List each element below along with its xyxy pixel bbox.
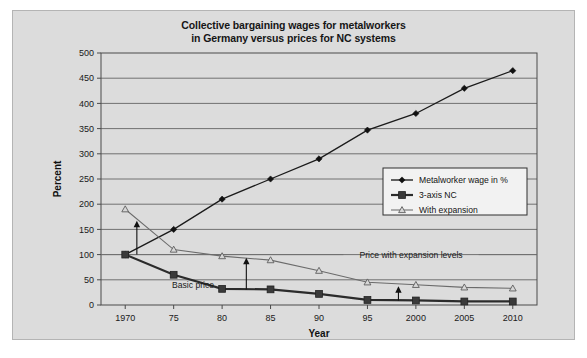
legend: Metalworker wage in %3-axis NCWith expan… <box>383 168 527 215</box>
y-tick-label: 50 <box>84 275 94 285</box>
plot-area: 050100150200250300350400450500 197075808… <box>13 11 576 341</box>
legend-label: Metalworker wage in % <box>419 175 508 185</box>
x-tick-label: 95 <box>362 313 372 323</box>
data-point-diamond <box>219 196 225 202</box>
x-tick-label: 2005 <box>454 313 474 323</box>
data-point-diamond <box>461 85 467 91</box>
data-point-square <box>267 286 274 293</box>
data-point-square <box>122 251 129 258</box>
y-tick-label: 250 <box>79 174 94 184</box>
y-tick-label: 450 <box>79 73 94 83</box>
data-point-diamond <box>171 226 177 232</box>
x-axis-title: Year <box>308 328 329 339</box>
figure: Collective bargaining wages for metalwor… <box>0 0 587 358</box>
y-tick-label: 350 <box>79 124 94 134</box>
x-axis-tick-labels: 19707580859095200020052010 <box>115 313 523 323</box>
y-tick-label: 0 <box>89 300 94 310</box>
data-point-square <box>461 298 468 305</box>
data-point-diamond <box>267 176 273 182</box>
y-tick-label: 500 <box>79 48 94 58</box>
data-point-square <box>364 297 371 304</box>
y-tick-label: 150 <box>79 225 94 235</box>
legend-label: With expansion <box>419 205 478 215</box>
data-point-diamond <box>364 127 370 133</box>
data-point-diamond <box>510 68 516 74</box>
y-axis-ticks <box>97 53 101 305</box>
x-tick-label: 80 <box>217 313 227 323</box>
y-tick-label: 100 <box>79 250 94 260</box>
legend-label: 3-axis NC <box>419 190 457 200</box>
data-point-square <box>412 297 419 304</box>
measure-arrow-head <box>134 221 140 228</box>
measure-arrow-head <box>395 286 401 293</box>
x-tick-label: 75 <box>169 313 179 323</box>
y-axis-title: Percent <box>52 160 63 197</box>
legend-marker-square <box>399 192 406 199</box>
x-tick-label: 90 <box>314 313 324 323</box>
x-axis-ticks <box>125 305 513 309</box>
y-tick-label: 200 <box>79 199 94 209</box>
x-tick-label: 2000 <box>406 313 426 323</box>
data-point-diamond <box>316 156 322 162</box>
x-tick-label: 85 <box>266 313 276 323</box>
x-tick-label: 1970 <box>115 313 135 323</box>
annotation-label: Basic price <box>172 280 214 290</box>
data-point-square <box>316 291 323 298</box>
data-point-square <box>170 271 177 278</box>
data-point-square <box>219 285 226 292</box>
y-axis-tick-labels: 050100150200250300350400450500 <box>79 48 94 310</box>
annotation-label: Price with expansion levels <box>359 250 462 260</box>
x-tick-label: 2010 <box>503 313 523 323</box>
data-point-square <box>509 298 516 305</box>
data-point-triangle <box>122 206 129 212</box>
data-point-diamond <box>413 110 419 116</box>
chart-panel: Collective bargaining wages for metalwor… <box>12 10 575 340</box>
y-tick-label: 400 <box>79 99 94 109</box>
y-tick-label: 300 <box>79 149 94 159</box>
series-line-diamond <box>125 71 513 255</box>
